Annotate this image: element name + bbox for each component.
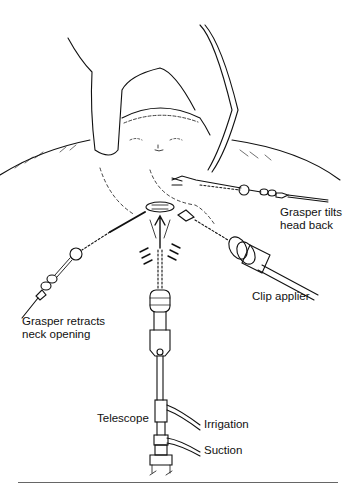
- clip-applier-instrument: [195, 220, 318, 300]
- torso-outline: [0, 140, 340, 180]
- label-line: Grasper retracts: [22, 315, 105, 328]
- neck-opening-port: [146, 202, 194, 221]
- head: [100, 108, 215, 225]
- surgical-illustration: [0, 0, 357, 501]
- label-clip-applier: Clip applier: [252, 290, 310, 303]
- label-suction: Suction: [204, 444, 242, 457]
- hands: [68, 25, 238, 172]
- motion-arrows: [140, 216, 180, 264]
- divider-rule: [18, 482, 338, 483]
- label-irrigation: Irrigation: [204, 418, 249, 431]
- telescope-instrument: [150, 250, 200, 475]
- label-grasper-tilts: Grasper tilts head back: [280, 206, 342, 232]
- grasper-retracts-instrument: [22, 212, 145, 318]
- label-grasper-retracts: Grasper retracts neck opening: [22, 315, 105, 341]
- label-line: head back: [280, 219, 342, 232]
- label-telescope: Telescope: [97, 412, 149, 425]
- label-line: Grasper tilts: [280, 206, 342, 219]
- grasper-tilts-instrument: [172, 176, 328, 202]
- label-line: neck opening: [22, 328, 105, 341]
